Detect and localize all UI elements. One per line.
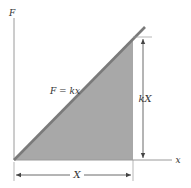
height-label: kX	[138, 93, 152, 104]
line-equation-label: F = kx	[49, 86, 80, 96]
y-axis-label: F	[8, 8, 16, 18]
force-displacement-diagram: F x F = kx kX X	[0, 0, 191, 188]
x-axis-label: x	[175, 155, 180, 165]
width-label: X	[72, 169, 81, 180]
